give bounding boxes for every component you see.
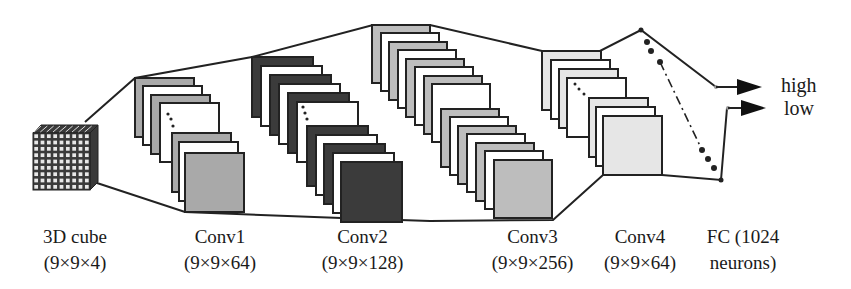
label-conv3: Conv3 (9×9×256) [470,224,595,276]
cube-cell [85,134,89,138]
conv4-block [542,51,662,175]
cube-cell [72,172,76,176]
cube-cell [34,153,38,157]
cube-cell [85,147,89,151]
cube-cell [47,147,51,151]
layer-name: 3D cube [20,224,130,250]
cube-cell [47,166,51,170]
cube-cell [47,179,51,183]
conv2-feature-map [341,162,402,222]
cube-cell [47,141,51,145]
ellipsis-dot [644,39,650,45]
cube-cell [34,172,38,176]
cube-cell [79,147,83,151]
cube-cell [34,185,38,189]
cube-cell [85,179,89,183]
ellipsis-dot [574,83,577,86]
cube-cell [41,172,45,176]
label-conv4: Conv4 (9×9×64) [585,224,695,276]
layer-name: FC (1024 [688,224,798,250]
cube-cell [41,153,45,157]
cube-cell [72,160,76,164]
cube-cell [60,134,64,138]
conv1-block [135,78,244,212]
cube-cell [41,179,45,183]
cube-cell [34,141,38,145]
label-conv1: Conv1 (9×9×64) [165,224,275,276]
cube-cell [34,160,38,164]
neuron-dash-dot-line [660,62,702,150]
cube-cell [47,172,51,176]
arrow-head-low-icon [741,100,766,116]
cube-cell [41,147,45,151]
layer-name: Conv1 [165,224,275,250]
conv3-feature-map [494,160,552,218]
cube-cell [66,141,70,145]
cube-cell [85,185,89,189]
cube-cell [72,141,76,145]
cube-cell [85,166,89,170]
ellipsis-dot [303,111,306,114]
cube-cell [72,179,76,183]
cube-cell [72,185,76,189]
cube-cell [34,147,38,151]
output-label-low: low [784,97,814,119]
layer-shape: (9×9×128) [300,250,425,276]
cube-cell [53,141,57,145]
cube-cell [34,166,38,170]
arrow-head-high-icon [737,79,762,95]
layer-name: Conv2 [300,224,425,250]
layer-name: Conv3 [470,224,595,250]
cube-cell [79,166,83,170]
cube-cell [79,179,83,183]
cube-cell [53,160,57,164]
cube-cell [41,141,45,145]
ellipsis-dot [583,93,586,96]
label-input: 3D cube (9×9×4) [20,224,130,276]
cube-side-face [90,125,98,190]
ellipsis-dot [711,165,717,171]
cube-cell [66,160,70,164]
ellipsis-dot [166,112,169,115]
cube-cell [72,166,76,170]
cube-cell [41,185,45,189]
layer-shape: (9×9×4) [20,250,130,276]
cube-cell [60,185,64,189]
cube-cell [66,147,70,151]
label-conv2: Conv2 (9×9×128) [300,224,425,276]
ellipsis-dot [719,178,724,183]
ellipsis-dot [648,48,654,54]
cube-cell [53,134,57,138]
cube-cell [85,153,89,157]
cube-cell [53,185,57,189]
label-fc: FC (1024 neurons) [688,224,798,276]
cube-cell [66,153,70,157]
cube-cell [47,185,51,189]
output-label-high: high [781,74,817,96]
cube-cell [60,147,64,151]
input-3d-cube [33,125,98,190]
layer-name: Conv4 [585,224,695,250]
ellipsis-dot [578,88,581,91]
conv1-feature-map [185,153,244,212]
cube-cell [66,172,70,176]
cube-cell [60,166,64,170]
cube-cell [53,153,57,157]
ellipsis-dot [301,105,304,108]
cube-cell [79,141,83,145]
cube-cell [53,166,57,170]
cube-cell [66,134,70,138]
cube-cell [66,179,70,183]
ellipsis-dot [305,117,308,120]
layer-shape: (9×9×256) [470,250,595,276]
cube-cell [60,141,64,145]
ellipsis-dot [171,124,174,127]
cube-cell [53,147,57,151]
cube-cell [85,160,89,164]
cube-cell [53,172,57,176]
cube-cell [34,134,38,138]
ellipsis-dot [639,28,644,33]
cube-cell [66,166,70,170]
cube-cell [66,185,70,189]
cube-cell [85,141,89,145]
